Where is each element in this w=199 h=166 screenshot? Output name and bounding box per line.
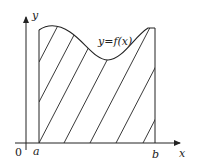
curve-f: [39, 26, 155, 60]
x-axis-label: x: [179, 147, 186, 160]
curve-label: y=f(x): [97, 35, 132, 48]
b-label: b: [152, 148, 159, 161]
y-axis-label: y: [31, 9, 39, 22]
origin-label: 0: [15, 146, 22, 159]
hatching: [39, 12, 199, 143]
a-label: a: [33, 145, 40, 158]
area-diagram: y x 0 a b y=f(x): [0, 0, 199, 166]
